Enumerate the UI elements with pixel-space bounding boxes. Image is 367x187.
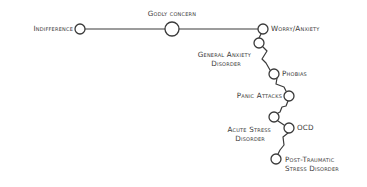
edge-gad-phobias [262, 47, 270, 70]
label-phobias: Phobias [282, 69, 307, 78]
node-panic-attacks [284, 91, 294, 101]
label-acute-stress-disorder: Acute Stress Disorder [227, 125, 271, 143]
node-godly-concern [165, 22, 179, 36]
label-ocd: OCD [297, 123, 314, 132]
edge-ocd-ptsd [278, 133, 288, 154]
label-ptsd: Post-Traumatic Stress Disorder [285, 155, 339, 173]
node-ocd [284, 123, 294, 133]
label-godly-concern: Godly concern [135, 9, 209, 18]
label-panic-attacks: Panic Attacks [237, 91, 282, 100]
label-general-anxiety-disorder: General Anxiety Disorder [198, 50, 251, 68]
label-asd-line2: Disorder [227, 134, 271, 143]
edge-panic-acute [278, 101, 288, 113]
edge-acute-ocd [278, 121, 284, 125]
label-gad-line1: General Anxiety [198, 50, 251, 59]
label-ptsd-line1: Post-Traumatic [285, 155, 339, 164]
label-indifference: Indifference [33, 24, 73, 33]
label-gad-line2: Disorder [198, 59, 251, 68]
node-general-anxiety-disorder [254, 38, 264, 48]
edge-phobias-panic [276, 78, 286, 91]
node-ptsd [271, 154, 281, 164]
label-worry-anxiety: Worry/Anxiety [271, 24, 320, 33]
node-indifference [75, 24, 85, 34]
label-ptsd-line2: Stress Disorder [285, 164, 339, 173]
node-phobias [269, 69, 279, 79]
node-worry-anxiety [258, 24, 268, 34]
label-asd-line1: Acute Stress [227, 125, 271, 134]
node-acute-stress-disorder [269, 112, 279, 122]
